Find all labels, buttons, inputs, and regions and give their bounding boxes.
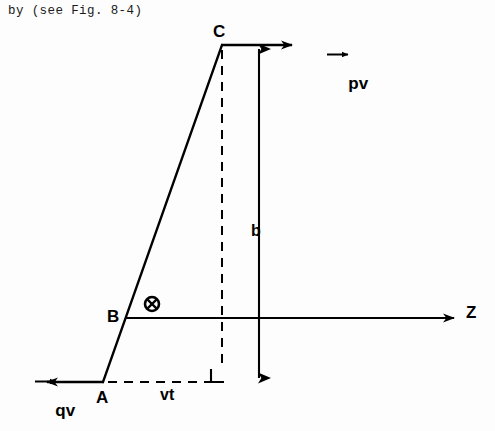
axis-label-z: Z (466, 303, 476, 323)
point-label-c: C (213, 22, 225, 42)
circled-x-icon (145, 297, 159, 311)
vector-overline-arrow-icon (327, 51, 353, 58)
vector-label-qv-text: qv (55, 401, 75, 420)
right-angle-marker-icon (211, 369, 224, 382)
point-label-b: B (107, 307, 119, 327)
vector-overline-arrow-icon (35, 378, 61, 385)
dimension-label-vt: vt (160, 386, 174, 404)
figure-canvas: by (see Fig. 8-4) (0, 0, 495, 431)
dimension-label-b: b (251, 222, 261, 240)
vector-label-qv: qv (8, 359, 75, 431)
vector-label-pv-text: pv (348, 74, 368, 93)
trajectory-line (103, 45, 222, 382)
point-label-a: A (96, 388, 108, 408)
vector-label-pv: pv (301, 32, 368, 154)
